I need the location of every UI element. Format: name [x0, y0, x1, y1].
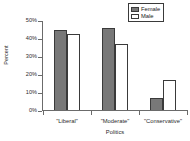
bar-group [139, 21, 187, 111]
legend-item: Male [131, 13, 160, 20]
bar-group [91, 21, 139, 111]
bar-chart: Percent 0%10%20%30%40%50% "Liberal""Mode… [0, 0, 190, 141]
bar-female [150, 98, 163, 112]
x-axis-tick-mark [139, 111, 140, 115]
bar-male [163, 80, 176, 112]
legend-swatch-female [131, 7, 139, 12]
y-axis-title: Percent [3, 32, 9, 78]
y-axis-tick-label: 10% [17, 90, 37, 96]
plot-area [43, 21, 187, 111]
x-axis-tick-label: "Liberal" [43, 118, 91, 125]
x-axis-tick-label: "Moderate" [91, 118, 139, 125]
x-axis-title: Politics [43, 129, 187, 136]
legend-label: Male [141, 13, 154, 19]
bar-group [43, 21, 91, 111]
bar-female [54, 30, 67, 111]
bar-male [67, 34, 80, 111]
bar-male [115, 44, 128, 112]
x-axis-tick-mark [91, 111, 92, 115]
y-axis-tick-label: 20% [17, 72, 37, 78]
x-axis-tick-label: "Conservative" [139, 118, 187, 125]
bar-female [102, 28, 115, 111]
y-axis-tick-label: 30% [17, 54, 37, 60]
legend-swatch-male [131, 14, 139, 19]
x-axis-tick-mark [43, 111, 44, 115]
chart-legend: FemaleMale [128, 3, 164, 22]
x-axis-tick-labels: "Liberal""Moderate""Conservative" [0, 118, 190, 127]
y-axis-tick-label: 40% [17, 36, 37, 42]
legend-label: Female [141, 6, 160, 12]
y-axis-tick-label: 50% [17, 18, 37, 24]
x-axis-ticks [0, 111, 190, 116]
x-axis-tick-mark [187, 111, 188, 115]
legend-item: Female [131, 6, 160, 13]
